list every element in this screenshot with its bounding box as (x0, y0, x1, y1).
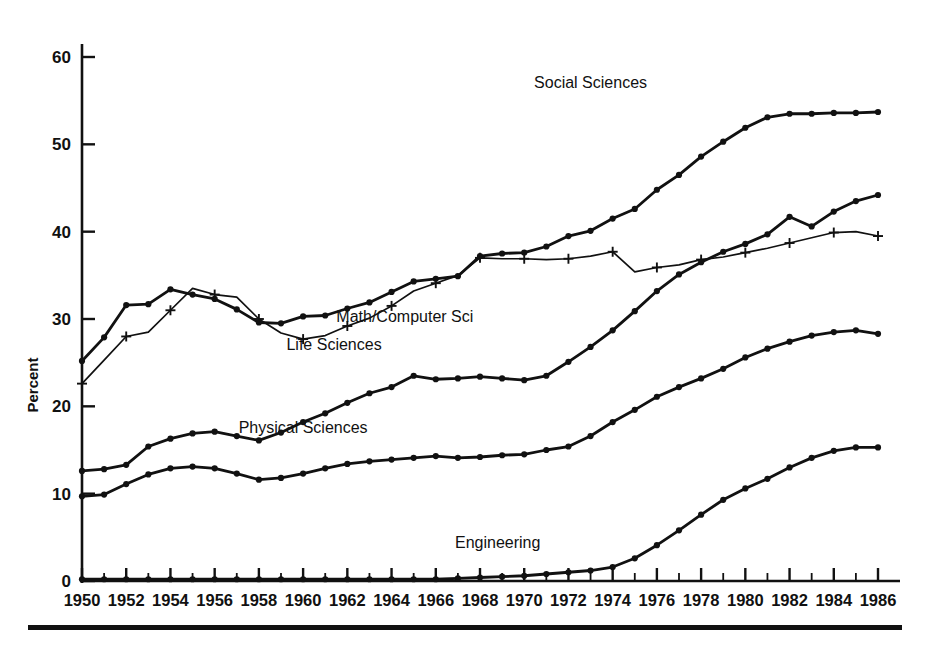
data-point (875, 109, 881, 115)
x-tick-label: 1956 (196, 591, 233, 609)
data-point (167, 465, 173, 471)
data-point (477, 454, 483, 460)
y-tick-label: 10 (52, 485, 71, 504)
y-axis-ticks: 0102030405060 (52, 48, 95, 591)
data-point (79, 576, 85, 582)
data-point (565, 233, 571, 239)
data-point (455, 575, 461, 581)
data-point (809, 332, 815, 338)
data-point (344, 576, 350, 582)
data-point (853, 110, 859, 116)
data-point (809, 111, 815, 117)
data-point (543, 571, 549, 577)
x-tick-label: 1974 (594, 591, 632, 609)
data-point (388, 384, 394, 390)
y-tick-label: 20 (52, 397, 71, 416)
data-point (322, 410, 328, 416)
data-point (698, 259, 704, 265)
data-point (632, 555, 638, 561)
data-point (654, 542, 660, 548)
data-point (698, 375, 704, 381)
data-point (278, 576, 284, 582)
data-point (145, 576, 151, 582)
data-point (212, 429, 218, 435)
x-tick-label: 1958 (241, 591, 278, 609)
data-point (499, 574, 505, 580)
data-point (543, 373, 549, 379)
data-point (587, 567, 593, 573)
data-point (809, 223, 815, 229)
data-point (123, 462, 129, 468)
x-tick-label: 1976 (639, 591, 676, 609)
data-point (189, 430, 195, 436)
data-point (79, 468, 85, 474)
data-point (101, 334, 107, 340)
x-tick-label: 1952 (108, 591, 145, 609)
x-tick-label: 1950 (64, 591, 101, 609)
data-point (322, 312, 328, 318)
data-point (499, 375, 505, 381)
data-point (831, 329, 837, 335)
data-point (720, 497, 726, 503)
data-point (256, 437, 262, 443)
data-point (853, 327, 859, 333)
data-point (610, 215, 616, 221)
data-point (189, 576, 195, 582)
data-point (654, 394, 660, 400)
data-point (764, 114, 770, 120)
x-tick-label: 1960 (285, 591, 322, 609)
data-point (742, 241, 748, 247)
x-tick-label: 1970 (506, 591, 543, 609)
data-point (433, 376, 439, 382)
data-point (543, 243, 549, 249)
x-axis-ticks: 1950195219541956195819601962196419661968… (64, 568, 897, 609)
data-point (256, 477, 262, 483)
y-tick-label: 0 (62, 572, 71, 591)
y-tick-label: 30 (52, 310, 71, 329)
data-point (145, 301, 151, 307)
data-point (565, 359, 571, 365)
data-point (610, 327, 616, 333)
data-point (278, 475, 284, 481)
y-tick-label: 40 (52, 223, 71, 242)
data-point (477, 574, 483, 580)
data-point (366, 390, 372, 396)
series-engineering: Engineering (79, 444, 881, 582)
data-point (764, 346, 770, 352)
data-point (101, 576, 107, 582)
data-point (632, 308, 638, 314)
series-line (82, 112, 878, 361)
data-point (875, 192, 881, 198)
data-point (632, 206, 638, 212)
data-point (344, 461, 350, 467)
data-point (300, 470, 306, 476)
data-point (587, 228, 593, 234)
data-point (433, 576, 439, 582)
data-point (521, 451, 527, 457)
series-label-engineering: Engineering (455, 534, 540, 551)
data-point (853, 198, 859, 204)
series-label-physical-sciences: Physical Sciences (239, 419, 368, 436)
data-point (101, 466, 107, 472)
data-point (145, 471, 151, 477)
data-point (720, 249, 726, 255)
series-line (82, 195, 878, 471)
data-point (411, 576, 417, 582)
data-point (809, 455, 815, 461)
data-point (366, 458, 372, 464)
data-point (388, 576, 394, 582)
data-point (366, 299, 372, 305)
data-point (875, 444, 881, 450)
data-point (543, 447, 549, 453)
x-tick-label: 1982 (771, 591, 808, 609)
data-point (167, 436, 173, 442)
data-point (720, 366, 726, 372)
series-label-social-sciences: Social Sciences (534, 74, 647, 91)
data-point (278, 320, 284, 326)
figure-root: 0102030405060Percent19501952195419561958… (0, 0, 930, 650)
data-point (477, 374, 483, 380)
series-line (82, 330, 878, 496)
data-point (344, 400, 350, 406)
x-tick-label: 1964 (373, 591, 411, 609)
data-point (632, 407, 638, 413)
